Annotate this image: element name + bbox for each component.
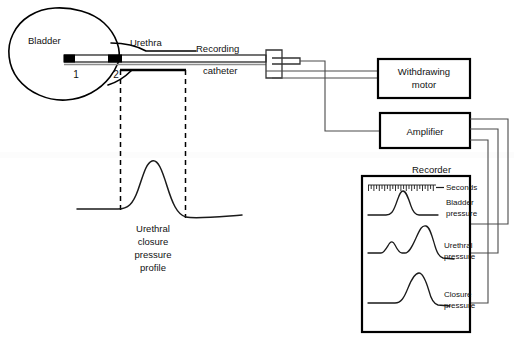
scan-band [0, 152, 514, 158]
seconds-channel-label: Seconds [446, 183, 477, 192]
recording-catheter-label-line2: catheter [203, 65, 237, 76]
urodynamics-diagram: 1 2 Bladder Urethra Recording catheter U… [0, 0, 514, 343]
bladder-label: Bladder [28, 35, 61, 46]
recorder-label: Recorder [412, 164, 451, 175]
sensor-2-number: 2 [113, 69, 119, 80]
amplifier-label: Amplifier [407, 126, 444, 137]
withdrawing-motor-box: Withdrawing motor [378, 59, 470, 98]
withdrawing-motor-label-line1: Withdrawing [398, 66, 450, 77]
bladder-pressure-label-line2: pressure [446, 209, 478, 218]
profile-label-line4: profile [140, 262, 166, 273]
profile-label-line1: Urethral [136, 223, 170, 234]
sensor-1-number: 1 [73, 69, 79, 80]
closure-pressure-label-line2: pressure [444, 301, 476, 310]
recording-catheter-label-line1: Recording [196, 43, 239, 54]
catheter-sensor-2 [108, 55, 122, 63]
urethral-pressure-label-line1: Urethral [444, 241, 473, 250]
profile-label-line3: pressure [135, 249, 172, 260]
catheter-sensor-1 [64, 55, 75, 63]
amplifier-box: Amplifier [380, 113, 470, 148]
urethra-label: Urethra [130, 37, 162, 48]
profile-label-line2: closure [138, 236, 169, 247]
urethral-pressure-label-line2: pressure [444, 252, 476, 261]
diagram-canvas: 1 2 Bladder Urethra Recording catheter U… [0, 0, 514, 343]
recorder-box: Seconds Bladder pressure Urethral pressu… [362, 176, 478, 332]
closure-pressure-label-line1: Closure [444, 290, 472, 299]
bladder-pressure-label-line1: Bladder [446, 198, 474, 207]
catheter-shaft [64, 55, 266, 62]
withdrawing-motor-label-line2: motor [412, 79, 436, 90]
